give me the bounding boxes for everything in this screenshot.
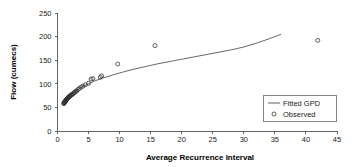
x-tick-label: 25 [209,135,217,144]
flow-recurrence-chart: 050100150200250 051015202530354045 Flow … [0,0,361,167]
x-tick-label: 0 [55,135,59,144]
chart-legend: Fitted GPD Observed [264,96,337,122]
y-axis-title: Flow (cumecs) [9,44,18,100]
x-tick-label: 5 [86,135,90,144]
x-tick-label: 40 [302,135,310,144]
y-tick-label: 250 [39,9,52,18]
legend-label-observed: Observed [283,110,316,119]
x-tick-label: 45 [333,135,341,144]
x-tick-label: 10 [115,135,123,144]
y-tick-label: 50 [43,103,51,112]
legend-label-fitted-gpd: Fitted GPD [283,99,321,108]
x-axis-title: Average Recurrence Interval [146,153,254,162]
y-tick-label: 100 [39,80,52,89]
x-tick-label: 20 [178,135,186,144]
y-tick-label: 200 [39,32,52,41]
x-tick-label: 35 [271,135,279,144]
chart-container: 050100150200250 051015202530354045 Flow … [0,0,361,167]
x-tick-label: 15 [146,135,154,144]
x-tick-label: 30 [240,135,248,144]
y-tick-label: 0 [47,127,51,136]
y-tick-label: 150 [39,56,52,65]
